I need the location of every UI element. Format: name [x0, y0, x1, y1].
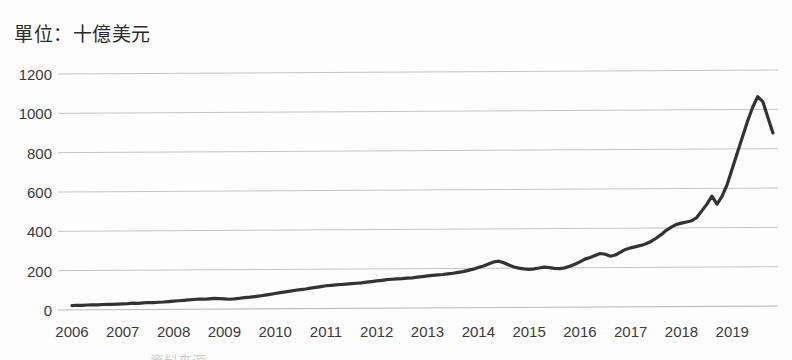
- x-tick-label: 2009: [208, 323, 241, 340]
- bottom-caption-clipped: 資料來源: [150, 350, 206, 360]
- x-tick-label: 2010: [258, 323, 291, 340]
- x-tick-label: 2011: [310, 323, 342, 340]
- chart-container: 單位：十億美元 120010008006004002000 2006200720…: [0, 0, 792, 360]
- x-axis: 2006200720082009201020112012201320142015…: [0, 0, 792, 360]
- x-tick-label: 2013: [411, 323, 444, 340]
- x-tick-label: 2012: [360, 323, 393, 340]
- x-tick-label: 2019: [716, 323, 749, 340]
- x-tick-label: 2006: [55, 323, 88, 340]
- x-tick-label: 2014: [462, 323, 495, 340]
- x-tick-label: 2007: [106, 323, 139, 340]
- x-tick-label: 2008: [157, 323, 190, 340]
- x-tick-label: 2017: [614, 323, 647, 340]
- x-tick-label: 2018: [665, 323, 698, 340]
- x-tick-label: 2016: [563, 323, 596, 340]
- x-tick-label: 2015: [512, 323, 545, 340]
